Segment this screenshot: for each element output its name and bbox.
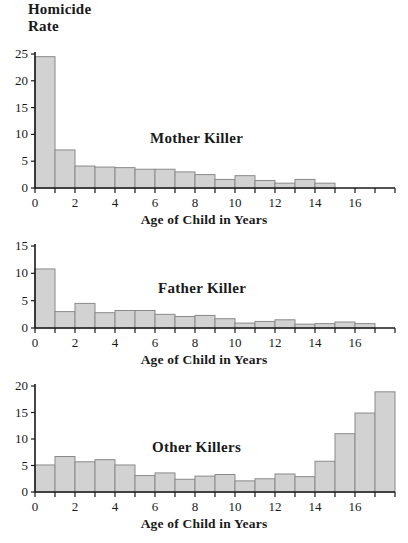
x-axis-tick-label: 6 [152, 499, 159, 514]
bar [355, 413, 375, 492]
x-axis-tick-label: 4 [112, 195, 119, 210]
y-axis-tick-label: 10 [15, 265, 28, 280]
x-axis-tick-label: 16 [349, 499, 363, 514]
y-axis-tick-label: 0 [22, 180, 29, 195]
bar [375, 392, 395, 492]
bar [235, 176, 255, 188]
x-axis-tick-label: 4 [112, 499, 119, 514]
bar [135, 169, 155, 188]
x-axis-tick-label: 14 [309, 195, 323, 210]
x-axis-tick-label: 0 [32, 499, 39, 514]
page-title-line-2: Rate [28, 18, 91, 35]
bar [195, 315, 215, 328]
bar [155, 473, 175, 492]
bar [135, 311, 155, 328]
bar [75, 462, 95, 492]
x-axis-tick-label: 12 [269, 499, 282, 514]
y-axis-tick-label: 10 [15, 431, 28, 446]
x-axis-tick-label: 10 [229, 335, 242, 350]
x-axis-tick-label: 0 [32, 195, 39, 210]
x-axis-tick-label: 10 [229, 195, 242, 210]
x-axis-tick-label: 8 [192, 335, 199, 350]
y-axis-tick-label: 20 [15, 73, 28, 88]
y-axis-tick-label: 20 [15, 378, 28, 393]
bar [115, 168, 135, 188]
bar [275, 474, 295, 492]
bar [115, 465, 135, 492]
x-axis-tick-label: 8 [192, 195, 199, 210]
y-axis-tick-label: 15 [15, 238, 28, 253]
series-label-mother-killer: Mother Killer [150, 130, 243, 147]
bar [275, 320, 295, 328]
y-axis-tick-label: 5 [22, 293, 29, 308]
bar [55, 312, 75, 328]
bar [95, 460, 115, 492]
bar [115, 311, 135, 328]
bar [215, 179, 235, 188]
y-axis-tick-label: 5 [22, 153, 29, 168]
chart-panel-father-killer: 0510150246810121416 Father Killer Age of… [0, 238, 408, 378]
bar [255, 321, 275, 328]
y-axis-tick-label: 15 [15, 100, 28, 115]
bar [255, 180, 275, 188]
x-axis-tick-label: 8 [192, 499, 199, 514]
x-axis-title-father-killer: Age of Child in Years [0, 352, 408, 368]
x-axis-tick-label: 6 [152, 335, 159, 350]
x-axis-tick-label: 12 [269, 195, 282, 210]
y-axis-tick-label: 15 [15, 405, 28, 420]
x-axis-tick-label: 2 [72, 195, 79, 210]
bar [35, 465, 55, 492]
bar [175, 317, 195, 328]
y-axis-tick-label: 25 [15, 46, 28, 61]
x-axis-tick-label: 16 [349, 335, 363, 350]
page-title: Homicide Rate [28, 1, 91, 35]
x-axis-tick-label: 2 [72, 335, 79, 350]
bar [55, 456, 75, 492]
bar [155, 314, 175, 328]
series-label-other-killers: Other Killers [152, 439, 241, 456]
bar [295, 477, 315, 492]
x-axis-title-other-killers: Age of Child in Years [0, 516, 408, 532]
bar [175, 479, 195, 492]
bar [35, 269, 55, 328]
y-axis-tick-label: 10 [15, 126, 28, 141]
x-axis-title-mother-killer: Age of Child in Years [0, 212, 408, 228]
bar [215, 475, 235, 492]
bar [95, 167, 115, 188]
x-axis-tick-label: 16 [349, 195, 363, 210]
bar [175, 172, 195, 188]
bar [315, 461, 335, 492]
bar [215, 319, 235, 328]
x-axis-tick-label: 12 [269, 335, 282, 350]
bar [75, 303, 95, 328]
bar [295, 179, 315, 188]
bar [55, 150, 75, 188]
bar [335, 322, 355, 328]
x-axis-tick-label: 10 [229, 499, 242, 514]
bar [95, 313, 115, 328]
y-axis-tick-label: 0 [22, 320, 29, 335]
page-title-line-1: Homicide [28, 1, 91, 18]
x-axis-tick-label: 14 [309, 499, 323, 514]
bar [35, 57, 55, 188]
x-axis-tick-label: 6 [152, 195, 159, 210]
y-axis-tick-label: 0 [22, 484, 29, 499]
bar [75, 166, 95, 188]
bar [155, 169, 175, 188]
chart-panel-mother-killer: 05101520250246810121416 Mother Killer Ag… [0, 44, 408, 240]
x-axis-tick-label: 0 [32, 335, 39, 350]
bar [135, 476, 155, 492]
bar [335, 434, 355, 492]
series-label-father-killer: Father Killer [158, 280, 246, 297]
bar [235, 481, 255, 492]
chart-panel-other-killers: 051015200246810121416 Other Killers Age … [0, 376, 408, 543]
bar [255, 479, 275, 492]
y-axis-tick-label: 5 [22, 458, 29, 473]
x-axis-tick-label: 2 [72, 499, 79, 514]
bar [195, 175, 215, 188]
bar [195, 476, 215, 492]
x-axis-tick-label: 4 [112, 335, 119, 350]
x-axis-tick-label: 14 [309, 335, 323, 350]
